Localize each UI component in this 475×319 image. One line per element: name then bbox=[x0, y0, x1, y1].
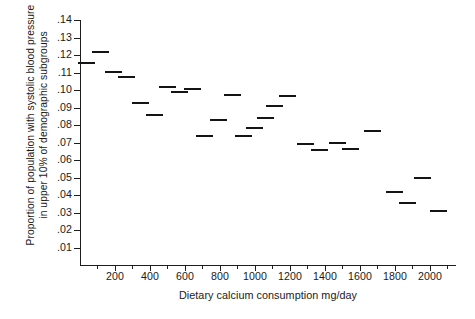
chart-figure: Proportion of population with systolic b… bbox=[0, 0, 475, 319]
data-point-marker bbox=[386, 191, 403, 193]
y-axis-tick bbox=[74, 178, 80, 179]
x-axis-minor-tick bbox=[202, 266, 203, 269]
y-axis-tick bbox=[74, 20, 80, 21]
y-axis-tick bbox=[74, 38, 80, 39]
y-axis-tick bbox=[74, 143, 80, 144]
data-point-marker bbox=[329, 142, 346, 144]
data-point-marker bbox=[311, 149, 328, 151]
data-point-marker bbox=[257, 117, 274, 119]
data-point-marker bbox=[118, 76, 135, 78]
y-axis-tick bbox=[74, 90, 80, 91]
y-axis-tick bbox=[74, 73, 80, 74]
x-axis-tick-label: 2000 bbox=[400, 270, 460, 282]
x-axis-minor-tick bbox=[342, 266, 343, 269]
y-axis-tick bbox=[74, 213, 80, 214]
x-axis-title: Dietary calcium consumption mg/day bbox=[80, 289, 456, 301]
data-point-marker bbox=[399, 202, 416, 204]
x-axis-minor-tick bbox=[272, 266, 273, 269]
data-point-marker bbox=[364, 130, 381, 132]
data-point-marker bbox=[196, 135, 213, 137]
y-axis-tick bbox=[74, 230, 80, 231]
x-axis-minor-tick bbox=[377, 266, 378, 269]
y-axis-tick bbox=[74, 248, 80, 249]
x-axis-minor-tick bbox=[412, 266, 413, 269]
data-point-marker bbox=[266, 105, 283, 107]
x-axis-minor-tick bbox=[237, 266, 238, 269]
data-point-marker bbox=[210, 119, 227, 121]
x-axis-minor-tick bbox=[307, 266, 308, 269]
data-point-marker bbox=[105, 71, 122, 73]
data-point-marker bbox=[171, 91, 188, 93]
y-axis-tick bbox=[74, 125, 80, 126]
data-point-marker bbox=[279, 95, 296, 97]
data-point-marker bbox=[184, 88, 201, 90]
y-axis-tick bbox=[74, 108, 80, 109]
data-point-marker bbox=[297, 143, 314, 145]
data-point-marker bbox=[224, 94, 241, 96]
data-point-marker bbox=[235, 135, 252, 137]
x-axis-minor-tick bbox=[447, 266, 448, 269]
y-axis-tick bbox=[74, 195, 80, 196]
x-axis-minor-tick bbox=[167, 266, 168, 269]
data-point-marker bbox=[92, 51, 109, 53]
data-point-marker bbox=[430, 210, 447, 212]
x-axis-minor-tick bbox=[132, 266, 133, 269]
data-point-marker bbox=[132, 102, 149, 104]
y-axis-tick bbox=[74, 160, 80, 161]
data-point-marker bbox=[159, 86, 176, 88]
x-axis-minor-tick bbox=[97, 266, 98, 269]
data-point-marker bbox=[246, 127, 263, 129]
data-point-marker bbox=[146, 114, 163, 116]
y-axis-tick bbox=[74, 55, 80, 56]
data-point-marker bbox=[414, 177, 431, 179]
data-point-marker bbox=[78, 62, 95, 64]
data-point-marker bbox=[342, 148, 359, 150]
